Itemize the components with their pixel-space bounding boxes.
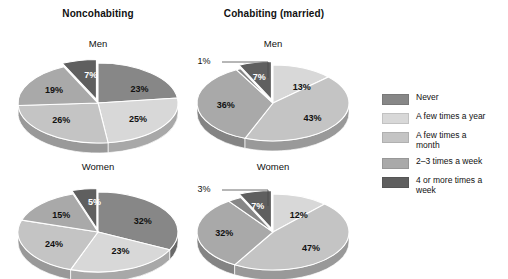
legend-swatch-icon [382,158,409,169]
pie-slice-label: 23% [131,84,149,94]
pie-slice [98,63,177,103]
pie-slice-label: 43% [304,113,322,123]
figure-canvas: Noncohabiting Cohabiting (married) Men M… [0,0,508,279]
legend-item: Never [382,93,508,105]
pie-slice-label: 23% [111,246,129,256]
pie-slice-label: 47% [302,243,320,253]
legend-label: 4 or more times aweek [416,176,482,195]
legend-label: A few times a year [416,112,485,122]
legend-swatch-icon [382,94,409,105]
legend-label: A few times amonth [416,131,467,150]
legend-item: A few times a year [382,112,508,124]
legend-swatch-icon [382,113,409,124]
legend-item: A few times amonth [382,131,508,150]
callout-label: 1% [197,56,210,66]
pie-cohabiting-women: 12%47%32%7%3% [197,184,349,279]
pie-slice-label: 32% [134,216,152,226]
legend-swatch-icon [382,177,409,188]
pie-charts-svg: 23%25%26%19%7%13%43%36%7%1%32%23%24%15%5… [0,0,380,279]
pie-slice-label: 7% [251,201,264,211]
pie-slice-label: 7% [84,70,97,80]
callout-label: 3% [197,184,210,194]
pie-charts-layer: 23%25%26%19%7%13%43%36%7%1%32%23%24%15%5… [0,0,380,279]
legend-label: Never [416,93,439,103]
pie-slice-label: 26% [52,115,70,125]
pie-slice-label: 24% [45,239,63,249]
pie-slice-label: 15% [52,210,70,220]
pie-noncohabiting-women: 32%23%24%15%5% [18,188,178,279]
legend-item: 4 or more times aweek [382,176,508,195]
pie-noncohabiting-men: 23%25%26%19%7% [18,59,178,153]
pie-slice-label: 25% [129,114,147,124]
pie-slice-label: 32% [215,228,233,238]
legend: NeverA few times a yearA few times amont… [382,93,508,202]
pie-slice-label: 13% [293,82,311,92]
pie-slice-label: 7% [253,72,266,82]
pie-cohabiting-men: 13%43%36%7%1% [197,56,349,151]
pie-slice-label: 12% [290,210,308,220]
pie-slice-label: 19% [45,85,63,95]
legend-item: 2–3 times a week [382,157,508,169]
pie-slice-label: 5% [88,197,101,207]
pie-slice-label: 36% [217,100,235,110]
legend-label: 2–3 times a week [416,157,482,167]
legend-swatch-icon [382,132,409,143]
